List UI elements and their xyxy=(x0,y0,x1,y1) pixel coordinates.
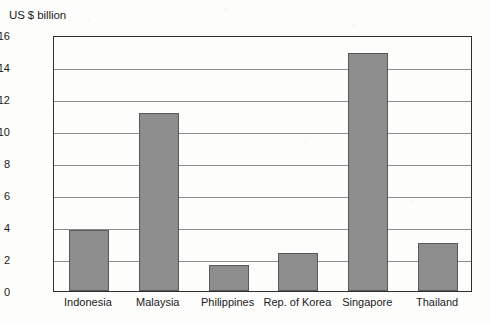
bar-philippines xyxy=(209,265,249,291)
bar-rep-of-korea xyxy=(278,253,318,291)
bar-indonesia xyxy=(69,230,109,291)
x-tick-label-indonesia: Indonesia xyxy=(64,296,112,308)
y-tick-label-10: 10 xyxy=(0,126,10,138)
gridline-4 xyxy=(54,229,471,230)
x-tick-label-philippines: Philippines xyxy=(201,296,254,308)
y-tick-label-0: 0 xyxy=(0,286,10,298)
y-tick-label-12: 12 xyxy=(0,94,10,106)
bar-singapore xyxy=(348,53,388,291)
gridline-12 xyxy=(54,101,471,102)
bar-malaysia xyxy=(139,113,179,291)
bar-thailand xyxy=(418,243,458,291)
x-tick-label-singapore: Singapore xyxy=(342,296,392,308)
x-tick-label-thailand: Thailand xyxy=(416,296,458,308)
y-tick-label-6: 6 xyxy=(0,190,10,202)
y-tick-label-2: 2 xyxy=(0,254,10,266)
x-tick-label-rep-of-korea: Rep. of Korea xyxy=(263,296,331,308)
plot-area xyxy=(53,36,472,292)
gridline-14 xyxy=(54,69,471,70)
gridline-6 xyxy=(54,197,471,198)
bar-chart-figure: US $ billion 0246810121416 IndonesiaMala… xyxy=(0,0,491,324)
y-tick-label-8: 8 xyxy=(0,158,10,170)
y-tick-label-4: 4 xyxy=(0,222,10,234)
x-tick-label-malaysia: Malaysia xyxy=(136,296,179,308)
y-tick-label-16: 16 xyxy=(0,30,10,42)
y-tick-label-14: 14 xyxy=(0,62,10,74)
gridline-2 xyxy=(54,261,471,262)
gridline-10 xyxy=(54,133,471,134)
y-axis-title: US $ billion xyxy=(9,9,66,21)
gridline-8 xyxy=(54,165,471,166)
